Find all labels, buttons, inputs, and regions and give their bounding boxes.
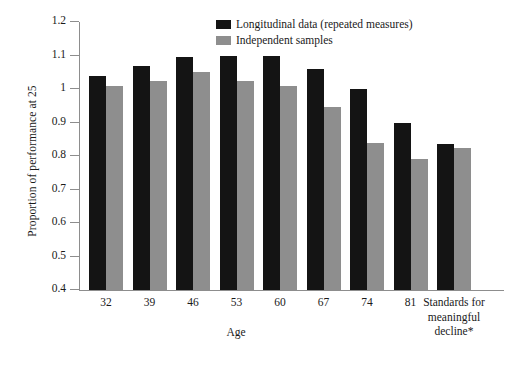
legend-swatch-icon <box>216 36 231 45</box>
bar-longitudinal <box>176 57 193 290</box>
bar-longitudinal <box>307 69 324 290</box>
bar-independent <box>367 143 384 290</box>
legend-label: Longitudinal data (repeated measures) <box>236 18 413 30</box>
x-axis-title: Age <box>206 326 266 338</box>
bar-independent <box>280 86 297 290</box>
bar-longitudinal <box>394 123 411 291</box>
y-axis-tick-label: 0.9 <box>52 114 66 129</box>
legend-item: Independent samples <box>216 33 413 47</box>
bar-independent <box>454 148 471 290</box>
y-axis-tick-label: 0.5 <box>52 248 66 263</box>
y-axis-tick-label: 1.2 <box>52 13 66 28</box>
bar-independent <box>237 81 254 290</box>
y-axis-tick: 0.8 <box>70 155 79 156</box>
y-axis-tick: 0.4 <box>70 289 79 290</box>
bar-longitudinal <box>350 89 367 290</box>
y-axis-tick: 0.6 <box>70 222 79 223</box>
bar-longitudinal <box>89 76 106 290</box>
y-axis-tick: 1.1 <box>70 55 79 56</box>
bar-independent <box>411 159 428 290</box>
bar-longitudinal <box>263 56 280 291</box>
bar-longitudinal <box>133 66 150 290</box>
bar-independent <box>324 107 341 290</box>
plot-area: 1.21.110.90.80.70.60.50.4 <box>79 22 497 290</box>
chart-legend: Longitudinal data (repeated measures)Ind… <box>216 17 413 49</box>
legend-item: Longitudinal data (repeated measures) <box>216 17 413 31</box>
y-axis-tick-label: 0.8 <box>52 147 66 162</box>
bar-independent <box>106 86 123 290</box>
legend-label: Independent samples <box>236 34 333 46</box>
bar-chart-figure: Proportion of performance at 25 1.21.110… <box>0 0 510 376</box>
y-axis-tick: 1 <box>70 88 79 89</box>
y-axis-tick: 1.2 <box>70 21 79 22</box>
bar-independent <box>150 81 167 290</box>
y-axis-tick-label: 1.1 <box>52 47 66 62</box>
bar-independent <box>193 72 210 290</box>
y-axis-tick: 0.7 <box>70 189 79 190</box>
y-axis-title: Proportion of performance at 25 <box>26 36 38 286</box>
y-axis-tick: 0.5 <box>70 256 79 257</box>
y-axis-tick-label: 0.6 <box>52 214 66 229</box>
x-axis-tick-label: Standards for meaningful decline* <box>417 295 491 339</box>
y-axis-tick-label: 1 <box>60 80 66 95</box>
y-axis-tick-label: 0.7 <box>52 181 66 196</box>
bar-longitudinal <box>220 56 237 291</box>
legend-swatch-icon <box>216 20 231 29</box>
y-axis-tick-label: 0.4 <box>52 281 66 296</box>
y-axis-tick: 0.9 <box>70 122 79 123</box>
bar-longitudinal <box>437 144 454 290</box>
x-axis-line <box>79 290 504 291</box>
